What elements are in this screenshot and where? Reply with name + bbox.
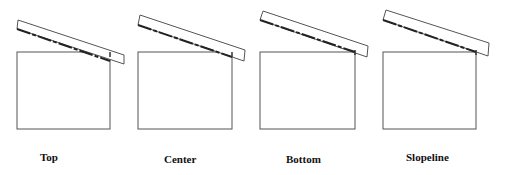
block-rect <box>138 52 232 129</box>
label-bottom: Bottom <box>286 153 321 165</box>
slope-plank <box>138 15 245 61</box>
slope-plank <box>383 10 489 56</box>
slope-line <box>17 29 110 61</box>
slope-plank <box>17 20 124 64</box>
block-rect <box>17 52 110 129</box>
slope-line <box>260 20 355 52</box>
diagram-canvas <box>0 0 505 175</box>
panel-slopeline <box>383 10 489 129</box>
label-center: Center <box>164 153 196 165</box>
panel-center <box>138 15 245 129</box>
panel-top <box>17 20 124 129</box>
panel-bottom <box>260 11 368 129</box>
block-rect <box>260 52 355 129</box>
label-slopeline: Slopeline <box>406 151 449 163</box>
block-rect <box>383 52 476 129</box>
label-top: Top <box>40 151 58 163</box>
